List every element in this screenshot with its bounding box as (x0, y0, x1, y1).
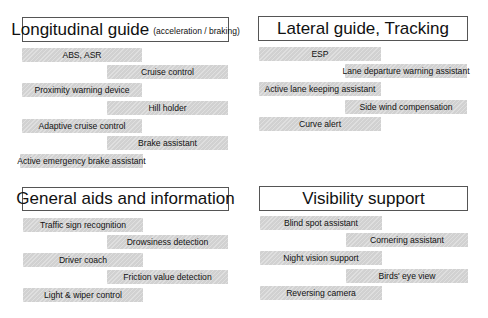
feature-bar: ESP (259, 47, 381, 61)
feature-bar: Active emergency brake assistant (20, 154, 143, 168)
feature-bar: Side wind compensation (345, 100, 467, 114)
section-title-box: Visibility support (259, 186, 468, 211)
section-title-box: Lateral guide, Tracking (258, 16, 468, 41)
feature-bar: Night vision support (260, 251, 382, 265)
section-title: Longitudinal guide (11, 20, 149, 40)
feature-bar: Friction value detection (107, 270, 228, 284)
feature-bar: Traffic sign recognition (23, 218, 143, 232)
feature-bar: Lane departure warning assistant (345, 64, 467, 78)
feature-bar: Active lane keeping assistant (259, 82, 381, 96)
feature-bar: Driver coach (23, 253, 143, 267)
feature-bar: Reversing camera (260, 286, 382, 300)
feature-bar: Cornering assistant (346, 233, 468, 247)
feature-bar: Birds' eye view (346, 269, 468, 283)
section-title-box: Longitudinal guide (acceleration / braki… (22, 17, 229, 42)
feature-bar: Adaptive cruise control (22, 119, 142, 133)
feature-bar: Curve alert (259, 117, 381, 131)
section-title: Lateral guide, Tracking (277, 19, 449, 39)
feature-bar: Cruise control (107, 65, 228, 79)
section-title-box: General aids and information (22, 187, 229, 211)
feature-bar: Hill holder (107, 101, 228, 115)
section-subtitle: (acceleration / braking) (153, 26, 239, 36)
section-title: General aids and information (16, 189, 234, 209)
feature-bar: Drowsiness detection (107, 235, 228, 249)
feature-bar: Brake assistant (107, 136, 228, 150)
feature-bar: Proximity warning device (22, 83, 142, 97)
section-title: Visibility support (302, 189, 425, 209)
feature-bar: Light & wiper control (23, 288, 143, 302)
feature-bar: ABS, ASR (22, 48, 142, 62)
feature-bar: Blind spot assistant (260, 216, 382, 230)
